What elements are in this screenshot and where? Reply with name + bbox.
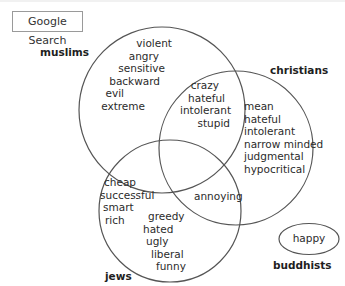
region-word: cheap (104, 176, 154, 189)
region-word: liberal (151, 248, 186, 261)
region-christians-only: mean hateful intolerant narrow minded ju… (244, 100, 323, 176)
region-word: crazy (180, 79, 219, 92)
set-label-jews: jews (105, 270, 132, 282)
set-label-buddhists: buddhists (273, 259, 332, 271)
region-word: narrow minded (244, 138, 323, 151)
region-word: intolerant (180, 104, 230, 117)
region-word: hateful (180, 92, 225, 105)
region-word: violent (100, 37, 172, 50)
region-word: judgmental (244, 150, 323, 163)
region-word: angry (100, 50, 159, 63)
region-word: hypocritical (244, 163, 323, 176)
region-word: intolerant (244, 125, 323, 138)
region-word: happy (279, 232, 339, 245)
region-word: hated (143, 223, 186, 236)
region-muslims-christians: crazy hateful intolerant stupid (180, 79, 230, 129)
region-word: successful (100, 189, 154, 202)
region-word: extreme (100, 100, 145, 113)
region-word: greedy (148, 210, 186, 223)
region-word: hateful (244, 113, 323, 126)
region-word: backward (100, 75, 160, 88)
region-buddhists-only: happy (279, 232, 339, 245)
region-word: evil (100, 87, 124, 100)
region-christians-jews: annoying (194, 190, 243, 203)
set-label-muslims: muslims (40, 46, 89, 58)
region-word: ugly (146, 235, 186, 248)
set-label-christians: christians (270, 64, 328, 76)
region-muslims-only: violent angry sensitive backward evil ex… (100, 37, 172, 113)
region-word: funny (156, 260, 186, 273)
region-word: mean (244, 100, 323, 113)
region-jews-only-right: greedy hated ugly liberal funny (143, 210, 186, 273)
region-word: stupid (180, 117, 230, 130)
region-word: sensitive (100, 62, 165, 75)
region-word: annoying (194, 190, 243, 203)
